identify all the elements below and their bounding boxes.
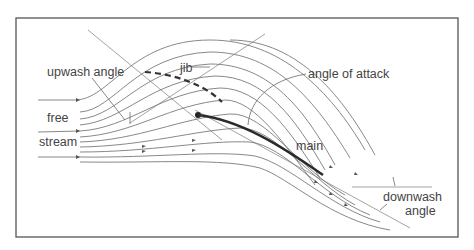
angle-of-attack-leader — [248, 74, 306, 125]
diagram-frame — [16, 18, 458, 237]
label-stream: stream — [39, 135, 77, 149]
label-free: free — [47, 111, 69, 125]
main-chord-line — [195, 110, 410, 228]
label-main: main — [296, 139, 323, 153]
sail-airflow-diagram: upwash angle jib angle of attack free st… — [0, 0, 474, 250]
downwash-tick-top — [393, 177, 395, 186]
upwash-reference-line — [88, 30, 222, 140]
label-jib: jib — [179, 61, 193, 75]
downwash-tick-bottom — [380, 204, 387, 210]
label-downwash: downwash — [383, 190, 442, 204]
label-angle: angle — [405, 204, 436, 218]
label-angle-of-attack: angle of attack — [308, 67, 390, 81]
label-upwash-angle: upwash angle — [47, 65, 124, 79]
